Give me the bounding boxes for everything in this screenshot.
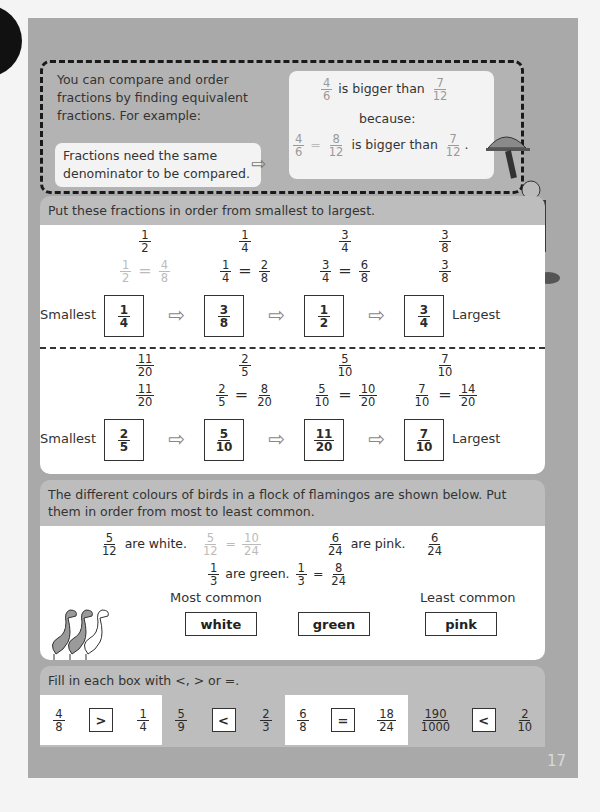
- answer-box[interactable]: 510: [204, 419, 244, 461]
- intro-callout: You can compare and order fractions by f…: [40, 60, 524, 194]
- answer-box-least[interactable]: pink: [425, 612, 497, 636]
- symbol-box[interactable]: <: [212, 708, 236, 732]
- least-common-label: Least common: [420, 590, 516, 605]
- section-instruction: Put these fractions in order from smalle…: [40, 196, 545, 225]
- arrow-right-icon: ⇨: [368, 303, 385, 327]
- answer-box[interactable]: 38: [204, 295, 244, 337]
- example-box: 46 is bigger than 712 because: 46 = 812 …: [289, 71, 494, 179]
- green-fact: 13 are green. 13 = 824: [206, 562, 350, 587]
- symbol-box[interactable]: =: [331, 708, 355, 732]
- example-line-1: 46 is bigger than 712: [319, 77, 451, 102]
- arrow-right-icon: ⇨: [168, 303, 185, 327]
- compare-section: Fill in each box with <, > or =. 48 > 14…: [40, 666, 545, 761]
- answer-box[interactable]: 14: [104, 295, 144, 337]
- ordering-section: Put these fractions in order from smalle…: [40, 196, 545, 474]
- fraction: 46: [321, 77, 332, 102]
- arrow-right-icon: ⇨: [268, 427, 285, 451]
- example-line-2: 46 = 812 is bigger than 712.: [291, 133, 468, 158]
- section-instruction: The different colours of birds in a floc…: [40, 480, 545, 526]
- largest-label: Largest: [452, 431, 500, 446]
- denominator-note: Fractions need the same denominator to b…: [55, 143, 261, 187]
- intro-text: You can compare and order fractions by f…: [57, 71, 287, 125]
- white-fact: 512 are white. 512 = 1024: [98, 532, 263, 557]
- arrow-right-icon: ⇨: [368, 427, 385, 451]
- flamingo-section: The different colours of birds in a floc…: [40, 480, 545, 660]
- row-divider: [40, 347, 545, 349]
- answer-box[interactable]: 1120: [304, 419, 344, 461]
- symbol-box[interactable]: <: [472, 708, 496, 732]
- smallest-label: Smallest: [40, 431, 96, 446]
- compare-item: 1901000 < 210: [408, 695, 545, 745]
- most-common-label: Most common: [170, 590, 262, 605]
- answer-box-middle[interactable]: green: [298, 612, 370, 636]
- arrow-right-icon: ⇨: [268, 303, 285, 327]
- largest-label: Largest: [452, 307, 500, 322]
- answer-box-most[interactable]: white: [185, 612, 257, 636]
- arrow-right-icon: ⇨: [168, 427, 185, 451]
- section-instruction: Fill in each box with <, > or =.: [40, 666, 545, 695]
- chapter-tab-marker: [0, 5, 22, 77]
- compare-item: 48 > 14: [40, 695, 162, 745]
- ordering-row-2: 1120 25 510 710 1120 25 = 820 510 = 1020…: [40, 353, 545, 471]
- answer-box[interactable]: 25: [104, 419, 144, 461]
- compare-item: 68 = 1824: [285, 695, 408, 745]
- flamingos-illustration-icon: [46, 604, 126, 660]
- answer-box[interactable]: 34: [404, 295, 444, 337]
- fraction: 712: [431, 77, 450, 102]
- ordering-row-1: 12 14 34 38 12 = 48 14 = 28 34 = 68 38 S…: [40, 229, 545, 347]
- arrow-right-icon: ⇨: [251, 153, 266, 174]
- worksheet-panel: You can compare and order fractions by f…: [28, 18, 578, 778]
- page-number: 17: [547, 752, 566, 770]
- compare-item: 59 < 23: [162, 695, 285, 745]
- answer-box[interactable]: 710: [404, 419, 444, 461]
- pink-fact: 624 are pink. 624: [324, 532, 446, 557]
- smallest-label: Smallest: [40, 307, 96, 322]
- answer-box[interactable]: 12: [304, 295, 344, 337]
- symbol-box[interactable]: >: [89, 708, 113, 732]
- because-label: because:: [359, 111, 416, 126]
